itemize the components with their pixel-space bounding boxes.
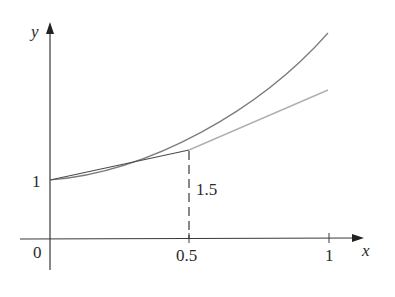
axes bbox=[20, 22, 364, 270]
x-axis bbox=[20, 238, 355, 239]
euler-segment-1 bbox=[50, 150, 189, 180]
x-tick-label-half: 0.5 bbox=[176, 246, 197, 265]
euler-segment-2 bbox=[189, 90, 328, 150]
origin-label: 0 bbox=[33, 243, 42, 262]
euler-method-chart: y x 0 1 0.5 1 1.5 bbox=[0, 0, 395, 297]
y-axis-label: y bbox=[29, 22, 39, 41]
x-axis-label: x bbox=[361, 241, 370, 260]
annotation-label: 1.5 bbox=[196, 180, 217, 199]
x-tick-label-1: 1 bbox=[325, 246, 334, 265]
y-axis-arrow-icon bbox=[46, 22, 54, 34]
y-tick-label-1: 1 bbox=[32, 172, 41, 191]
